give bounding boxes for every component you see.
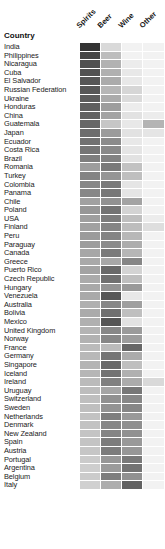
heatmap-row-cells (80, 387, 164, 396)
heatmap-cell-spirits (80, 284, 101, 293)
heatmap-cell-wine (122, 301, 143, 310)
heatmap-cell-spirits (80, 413, 101, 422)
heatmap-row-cells (80, 456, 164, 465)
heatmap-row-cells (80, 232, 164, 241)
heatmap-cell-spirits (80, 155, 101, 164)
heatmap-cell-beer (101, 352, 122, 361)
heatmap-cell-beer (101, 69, 122, 78)
heatmap-row-cells (80, 258, 164, 267)
heatmap-cell-other (143, 378, 164, 387)
heatmap-cell-spirits (80, 120, 101, 129)
heatmap-row-cells (80, 163, 164, 172)
heatmap-row-cells (80, 249, 164, 258)
heatmap-cell-other (143, 464, 164, 473)
heatmap-cell-other (143, 258, 164, 267)
heatmap-cell-spirits (80, 335, 101, 344)
heatmap-cell-beer (101, 438, 122, 447)
heatmap-cell-wine (122, 129, 143, 138)
heatmap-cell-spirits (80, 129, 101, 138)
heatmap-row-cells (80, 241, 164, 250)
heatmap-cell-other (143, 206, 164, 215)
heatmap-cell-beer (101, 309, 122, 318)
heatmap-cell-beer (101, 241, 122, 250)
heatmap-cell-other (143, 138, 164, 147)
heatmap-cell-beer (101, 292, 122, 301)
heatmap-cell-wine (122, 112, 143, 121)
heatmap-row-cells (80, 223, 164, 232)
heatmap-cell-spirits (80, 241, 101, 250)
heatmap-cell-wine (122, 249, 143, 258)
heatmap-cell-wine (122, 189, 143, 198)
heatmap-cell-spirits (80, 112, 101, 121)
heatmap-cell-other (143, 335, 164, 344)
heatmap-cell-spirits (80, 327, 101, 336)
heatmap-cell-wine (122, 352, 143, 361)
heatmap-row-cells (80, 69, 164, 78)
heatmap-cell-beer (101, 404, 122, 413)
heatmap-cell-spirits (80, 86, 101, 95)
heatmap-cell-beer (101, 335, 122, 344)
heatmap-row-cells (80, 327, 164, 336)
heatmap-cell-wine (122, 86, 143, 95)
heatmap-cell-spirits (80, 232, 101, 241)
heatmap-row-cells (80, 120, 164, 129)
heatmap-row-cells (80, 60, 164, 69)
heatmap-cell-beer (101, 206, 122, 215)
heatmap-cell-beer (101, 103, 122, 112)
heatmap-row-cells (80, 284, 164, 293)
heatmap-cell-wine (122, 103, 143, 112)
heatmap-cell-wine (122, 206, 143, 215)
heatmap-cell-other (143, 249, 164, 258)
heatmap-cell-spirits (80, 421, 101, 430)
heatmap-cell-other (143, 327, 164, 336)
heatmap-cell-beer (101, 249, 122, 258)
heatmap-row: Guatemala (0, 120, 165, 129)
heatmap-cell-other (143, 69, 164, 78)
heatmap-cell-beer (101, 172, 122, 181)
heatmap-cell-spirits (80, 344, 101, 353)
heatmap-row: Italy (0, 481, 165, 490)
heatmap-cell-beer (101, 413, 122, 422)
heatmap-row-cells (80, 155, 164, 164)
heatmap-row-cells (80, 52, 164, 61)
heatmap-row-cells (80, 292, 164, 301)
heatmap-cell-other (143, 181, 164, 190)
column-header-other: Other (138, 9, 159, 30)
heatmap-cell-beer (101, 163, 122, 172)
heatmap-row-cells (80, 215, 164, 224)
heatmap-row-cells (80, 103, 164, 112)
heatmap-cell-spirits (80, 60, 101, 69)
heatmap-cell-other (143, 456, 164, 465)
heatmap-cell-beer (101, 370, 122, 379)
heatmap-cell-other (143, 172, 164, 181)
heatmap-cell-beer (101, 473, 122, 482)
heatmap-cell-other (143, 473, 164, 482)
heatmap-cell-beer (101, 215, 122, 224)
heatmap-row: New Zealand (0, 430, 165, 439)
heatmap-row-cells (80, 335, 164, 344)
heatmap-cell-beer (101, 181, 122, 190)
heatmap-cell-spirits (80, 138, 101, 147)
heatmap-row-cells (80, 395, 164, 404)
heatmap-cell-spirits (80, 318, 101, 327)
heatmap-cell-other (143, 438, 164, 447)
heatmap-row: Honduras (0, 103, 165, 112)
heatmap-cell-spirits (80, 464, 101, 473)
heatmap-row: Panama (0, 189, 165, 198)
heatmap-cell-wine (122, 232, 143, 241)
heatmap-row: Poland (0, 206, 165, 215)
heatmap-cell-spirits (80, 189, 101, 198)
heatmap-row: Finland (0, 223, 165, 232)
heatmap-cell-spirits (80, 438, 101, 447)
row-label-country: Italy (4, 481, 17, 490)
heatmap-cell-spirits (80, 404, 101, 413)
heatmap-cell-wine (122, 60, 143, 69)
heatmap-cell-wine (122, 120, 143, 129)
heatmap-row-cells (80, 413, 164, 422)
heatmap-row-cells (80, 404, 164, 413)
heatmap-cell-beer (101, 378, 122, 387)
heatmap-cell-beer (101, 129, 122, 138)
heatmap-cell-beer (101, 258, 122, 267)
heatmap-cell-other (143, 232, 164, 241)
heatmap-cell-wine (122, 258, 143, 267)
